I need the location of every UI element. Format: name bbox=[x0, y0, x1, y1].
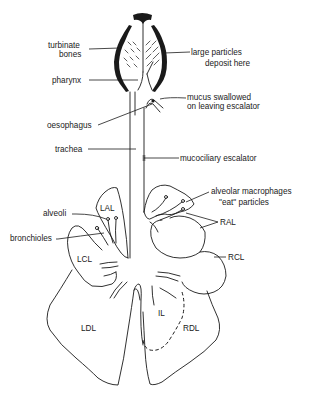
rcl-bronchus-1 bbox=[158, 272, 180, 276]
label-mucociliary-escalator: mucociliary escalator bbox=[180, 154, 257, 163]
lobe-label-RCL: RCL bbox=[228, 253, 245, 262]
lobe-labels: LAL RAL LCL RCL IL LDL RDL bbox=[77, 204, 245, 333]
lobe-label-IL: IL bbox=[158, 309, 165, 318]
trachea bbox=[130, 92, 145, 258]
lobe-label-LAL: LAL bbox=[100, 204, 115, 213]
lobe-label-LCL: LCL bbox=[77, 255, 92, 264]
turbinate-hatching-left bbox=[124, 42, 140, 67]
label-eat-particles: "eat" particles bbox=[219, 198, 269, 207]
larynx-junction bbox=[135, 92, 163, 115]
nostril-cap bbox=[133, 13, 152, 24]
pharynx-wall bbox=[138, 62, 153, 90]
label-deposit-here: deposit here bbox=[205, 59, 251, 68]
lobe-label-RDL: RDL bbox=[183, 324, 200, 333]
label-leaving-escalator: on leaving escalator bbox=[187, 102, 260, 111]
lobe-RCL-outline bbox=[182, 252, 226, 295]
label-trachea: trachea bbox=[55, 145, 83, 154]
label-mucus-swallowed: mucus swallowed bbox=[187, 93, 252, 102]
rdl-bronchus bbox=[152, 286, 154, 305]
lobe-label-LDL: LDL bbox=[81, 324, 96, 333]
label-large-particles: large particles bbox=[191, 48, 242, 57]
rcl-bronchus-2 bbox=[156, 276, 178, 281]
lcl-bronchioles bbox=[100, 262, 118, 276]
mucus-dot bbox=[151, 99, 154, 102]
lobe-label-RAL: RAL bbox=[220, 218, 236, 227]
label-alveolar-macrophages: alveolar macrophages bbox=[211, 187, 292, 196]
label-turbinate-2: bones bbox=[59, 50, 81, 59]
label-pharynx: pharynx bbox=[52, 76, 81, 85]
il-bronchus bbox=[160, 288, 176, 298]
respiratory-diagram: turbinate bones large particles deposit … bbox=[0, 0, 313, 398]
label-oesophagus: oesophagus bbox=[47, 121, 92, 130]
label-alveoli: alveoli bbox=[43, 209, 66, 218]
lobe-RDL-outline bbox=[143, 291, 220, 385]
label-turbinate: turbinate bbox=[48, 41, 80, 50]
lobe-IL-boundary bbox=[143, 292, 184, 350]
lobe-LAL-outline bbox=[96, 188, 128, 259]
nasal-wall-left bbox=[114, 25, 132, 92]
annotation-labels: turbinate bones large particles deposit … bbox=[10, 41, 292, 243]
ldl-bronchus-2 bbox=[114, 282, 127, 298]
label-bronchioles: bronchioles bbox=[10, 234, 52, 243]
lobe-RAL-lower bbox=[151, 216, 205, 258]
lal-bronchioles bbox=[95, 217, 117, 246]
